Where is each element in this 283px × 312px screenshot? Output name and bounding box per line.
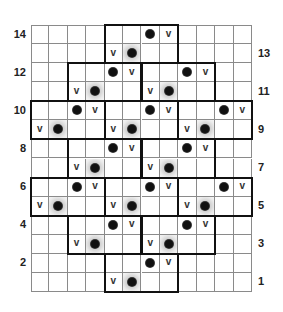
chart-cell [86, 254, 104, 273]
v-icon: v [37, 124, 43, 134]
chart-cell [49, 178, 67, 197]
chart-cell [68, 216, 86, 235]
shaded-dot-symbol [123, 120, 140, 138]
v-icon: v [203, 67, 209, 77]
chart-cell [234, 273, 252, 292]
chart-cell [86, 197, 104, 216]
shaded-dot-symbol [123, 273, 140, 291]
chart-cell [142, 273, 160, 292]
chart-cell [178, 25, 196, 44]
chart-cell: v [234, 178, 252, 197]
chart-cell [160, 44, 178, 63]
chart-cell [68, 273, 86, 292]
chart-cell: v [234, 101, 252, 120]
chart-cell [178, 139, 196, 158]
chart-cell [105, 25, 123, 44]
chart-cell: v [160, 254, 178, 273]
filled-circle-icon [73, 183, 81, 191]
filled-circle-icon [109, 221, 117, 229]
filled-circle-icon [128, 49, 136, 57]
chart-cell [68, 25, 86, 44]
filled-circle-icon [201, 125, 209, 133]
chart-cell [49, 101, 67, 120]
chart-cell [31, 216, 49, 235]
row-number-label: 5 [258, 199, 278, 211]
chart-cell [197, 120, 215, 139]
dot-symbol [105, 139, 122, 157]
v-icon: v [203, 143, 209, 153]
chart-cell [234, 235, 252, 254]
v-symbol: v [68, 82, 85, 100]
filled-circle-icon [220, 183, 228, 191]
chart-cell: v [123, 63, 141, 82]
chart-cell [197, 101, 215, 120]
chart-cell [105, 139, 123, 158]
chart-cell: v [178, 197, 196, 216]
filled-circle-icon [54, 202, 62, 210]
chart-cell [178, 235, 196, 254]
v-icon: v [129, 67, 135, 77]
chart-cell [215, 273, 233, 292]
chart-cell [86, 235, 104, 254]
chart-cell [49, 120, 67, 139]
v-icon: v [166, 105, 172, 115]
v-symbol: v [142, 159, 159, 177]
v-symbol: v [142, 82, 159, 100]
chart-cell [31, 63, 49, 82]
filled-circle-icon [128, 278, 136, 286]
chart-cell [123, 25, 141, 44]
chart-cell [215, 63, 233, 82]
chart-cell [215, 178, 233, 197]
chart-cell [31, 139, 49, 158]
chart-cell [31, 25, 49, 44]
chart-cell [49, 25, 67, 44]
v-symbol: v [123, 139, 140, 157]
chart-cell [215, 197, 233, 216]
chart-cell [86, 159, 104, 178]
chart-cell [142, 63, 160, 82]
chart-cell [160, 197, 178, 216]
chart-cell: v [31, 197, 49, 216]
v-icon: v [184, 200, 190, 210]
chart-cell [178, 254, 196, 273]
filled-circle-icon [146, 106, 154, 114]
filled-circle-icon [109, 144, 117, 152]
shaded-dot-symbol [86, 82, 103, 100]
chart-cell [123, 159, 141, 178]
v-icon: v [240, 181, 246, 191]
filled-circle-icon [165, 87, 173, 95]
row-number-label: 2 [6, 256, 26, 268]
chart-cell [160, 63, 178, 82]
chart-cell [86, 139, 104, 158]
row-number-label: 12 [6, 66, 26, 78]
chart-cell [178, 63, 196, 82]
chart-cell [197, 82, 215, 101]
chart-cell [123, 101, 141, 120]
dot-symbol [105, 216, 122, 234]
dot-symbol [68, 101, 85, 119]
shaded-dot-symbol [123, 44, 140, 62]
chart-cell [215, 159, 233, 178]
v-symbol: v [197, 216, 214, 234]
filled-circle-icon [146, 30, 154, 38]
v-icon: v [166, 181, 172, 191]
chart-cell [86, 25, 104, 44]
chart-cell [215, 120, 233, 139]
chart-cell [178, 44, 196, 63]
chart-cell [234, 216, 252, 235]
chart-cell: v [160, 178, 178, 197]
dot-symbol [142, 25, 159, 43]
chart-cell [197, 25, 215, 44]
chart-cell [234, 120, 252, 139]
chart-cell [142, 25, 160, 44]
chart-cell [160, 273, 178, 292]
chart-cell [49, 235, 67, 254]
row-number-label: 13 [258, 47, 278, 59]
chart-cell [234, 82, 252, 101]
v-symbol: v [160, 25, 177, 43]
chart-cell: v [197, 139, 215, 158]
chart-cell [105, 101, 123, 120]
v-icon: v [166, 257, 172, 267]
chart-cell: v [142, 235, 160, 254]
chart-cell [178, 273, 196, 292]
